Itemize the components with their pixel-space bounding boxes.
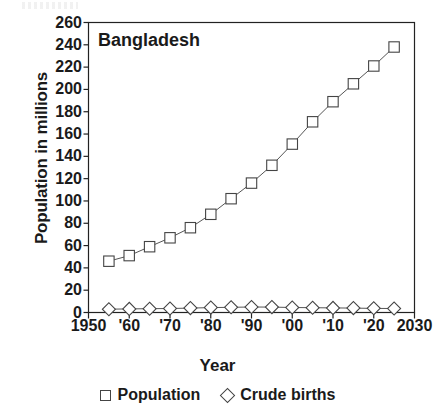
x-tick-label: 1950 xyxy=(71,318,107,334)
series-population xyxy=(104,42,400,267)
diamond-data-marker xyxy=(184,302,197,315)
chart-figure: Population in millions 26024022020018016… xyxy=(0,0,435,420)
x-tick-label: '90 xyxy=(241,318,263,334)
square-data-marker xyxy=(104,256,114,266)
x-tick-label: '70 xyxy=(159,318,181,334)
x-tick-label: '80 xyxy=(200,318,222,334)
y-tick-label: 60 xyxy=(64,238,82,254)
scan-artifact xyxy=(22,2,78,9)
x-axis-title: Year xyxy=(0,356,435,376)
series-crude-births xyxy=(102,300,400,315)
diamond-data-marker xyxy=(265,301,278,314)
square-data-marker xyxy=(389,42,399,52)
chart-legend: Population Crude births xyxy=(0,386,435,404)
square-data-marker xyxy=(185,223,195,233)
legend-label: Crude births xyxy=(240,386,335,404)
x-tick-label: 2030 xyxy=(397,318,433,334)
y-tick-label: 160 xyxy=(55,126,82,142)
y-tick-label: 120 xyxy=(55,171,82,187)
y-tick-label: 140 xyxy=(55,148,82,164)
square-data-marker xyxy=(206,209,216,219)
diamond-data-marker xyxy=(388,302,401,315)
y-tick-label: 180 xyxy=(55,104,82,120)
square-data-marker xyxy=(348,79,358,89)
diamond-data-marker xyxy=(245,300,258,313)
diamond-data-marker xyxy=(204,301,217,314)
axis-frame xyxy=(89,23,415,313)
square-data-marker xyxy=(369,61,379,71)
x-tick-label: '00 xyxy=(281,318,303,334)
series-line xyxy=(109,47,394,261)
x-axis-tick-labels: 1950'60'70'80'90'00'10'202030 xyxy=(0,318,435,340)
diamond-data-marker xyxy=(143,302,156,315)
diamond-data-marker xyxy=(286,301,299,314)
y-tick-label: 100 xyxy=(55,193,82,209)
diamond-data-marker xyxy=(326,301,339,314)
y-axis-ticks xyxy=(84,23,89,313)
x-tick-label: '20 xyxy=(363,318,385,334)
y-tick-label: 200 xyxy=(55,81,82,97)
x-tick-label: '60 xyxy=(118,318,140,334)
diamond-data-marker xyxy=(163,302,176,315)
y-tick-label: 40 xyxy=(64,260,82,276)
plot-title: Bangladesh xyxy=(98,30,200,51)
square-data-marker xyxy=(328,97,338,107)
diamond-data-marker xyxy=(225,301,238,314)
y-tick-label: 20 xyxy=(64,282,82,298)
square-data-marker xyxy=(267,160,277,170)
square-data-marker xyxy=(124,250,134,260)
y-tick-label: 80 xyxy=(64,215,82,231)
legend-item-crude-births[interactable]: Crude births xyxy=(222,386,335,404)
legend-item-population[interactable]: Population xyxy=(100,386,201,404)
y-tick-label: 260 xyxy=(55,15,82,31)
square-data-marker xyxy=(307,117,317,127)
square-data-marker xyxy=(144,242,154,252)
data-series-layer xyxy=(102,42,400,316)
diamond-data-marker xyxy=(123,302,136,315)
square-data-marker xyxy=(165,233,175,243)
diamond-marker-icon xyxy=(220,387,236,403)
diamond-data-marker xyxy=(306,301,319,314)
square-data-marker xyxy=(287,139,297,149)
legend-label: Population xyxy=(118,386,201,404)
square-marker-icon xyxy=(100,390,111,401)
y-tick-label: 240 xyxy=(55,37,82,53)
diamond-data-marker xyxy=(347,302,360,315)
diamond-data-marker xyxy=(102,303,115,316)
y-axis-tick-labels: 260240220200180160140120100806040200 xyxy=(36,22,84,313)
x-tick-label: '10 xyxy=(322,318,344,334)
square-data-marker xyxy=(246,178,256,188)
square-data-marker xyxy=(226,194,236,204)
diamond-data-marker xyxy=(367,302,380,315)
series-line xyxy=(109,307,394,309)
y-tick-label: 220 xyxy=(55,59,82,75)
